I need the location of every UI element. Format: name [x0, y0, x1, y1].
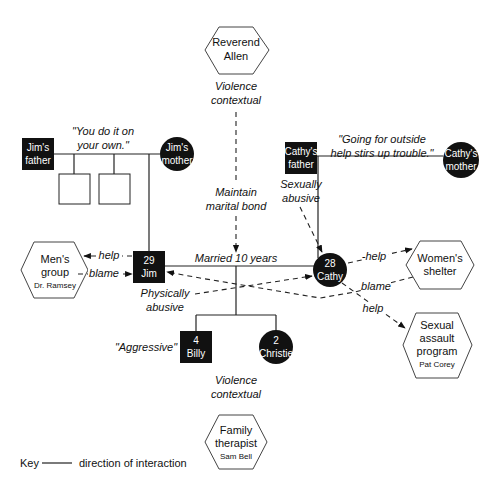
svg-text:2: 2 [273, 335, 279, 346]
christie-node: 2 Christie [259, 330, 293, 364]
maintain-bond-line1: Maintain [215, 186, 257, 198]
svg-text:Christie: Christie [259, 348, 293, 359]
cathy-help-shelter-label: -help [362, 250, 386, 262]
svg-text:Men's: Men's [41, 253, 70, 265]
svg-text:therapist: therapist [215, 437, 257, 449]
key-legend: Key direction of interaction [20, 457, 187, 469]
reverend-line2: Allen [224, 50, 248, 62]
genogram-diagram: Reverend Allen Violence contextual Maint… [0, 0, 489, 494]
family-therapist-node: Family therapist Sam Bell [205, 415, 267, 469]
jims-father-node: Jim's father [22, 138, 54, 170]
sibling-box-1 [59, 174, 90, 204]
key-description: direction of interaction [79, 457, 187, 469]
violence-contextual-top-line2: contextual [211, 94, 262, 106]
sexually-abusive-line2: abusive [282, 192, 320, 204]
billy-node: 4 Billy [180, 331, 212, 363]
physically-abusive-line1: Physically [141, 287, 191, 299]
maintain-bond-line2: marital bond [206, 200, 267, 212]
svg-text:program: program [417, 345, 458, 357]
sibling-box-2 [99, 174, 130, 204]
mens-blame-label: blame [89, 267, 119, 279]
cathy-family-quote-line1: "Going for outside [338, 133, 426, 145]
jim-family-quote-line2: your own." [76, 139, 130, 151]
svg-text:mother: mother [445, 161, 477, 172]
svg-text:Pat Corey: Pat Corey [419, 360, 455, 369]
svg-text:Cathy's: Cathy's [284, 146, 317, 157]
svg-text:group: group [41, 266, 69, 278]
physically-abusive-line2: abusive [146, 301, 184, 313]
svg-text:Cathy's: Cathy's [444, 148, 477, 159]
svg-text:Family: Family [220, 424, 253, 436]
jim-family-quote-line1: "You do it on [72, 125, 134, 137]
svg-text:Billy: Billy [187, 348, 205, 359]
reverend-line1: Reverend [212, 36, 260, 48]
svg-text:Jim: Jim [141, 268, 157, 279]
sexual-assault-program-node: Sexual assault program Pat Corey [403, 313, 472, 378]
svg-text:Jim's: Jim's [27, 142, 49, 153]
cathy-help-assault-label: help [363, 302, 384, 314]
svg-text:father: father [288, 159, 314, 170]
svg-text:28: 28 [324, 258, 336, 269]
violence-contextual-bottom-line1: Violence [215, 374, 257, 386]
svg-text:Jim's: Jim's [166, 142, 188, 153]
svg-text:Sam Bell: Sam Bell [220, 452, 252, 461]
aggressive-label: "Aggressive" [115, 341, 178, 353]
womens-shelter-node: Women's shelter [406, 241, 474, 289]
svg-text:Women's: Women's [417, 252, 463, 264]
svg-text:mother: mother [161, 155, 193, 166]
mens-help-label: help [99, 249, 120, 261]
svg-text:assault: assault [420, 332, 455, 344]
sexually-abusive-line1: Sexually [280, 178, 323, 190]
cathys-father-to-cathy-arrow [300, 207, 322, 252]
reverend-allen-node: Reverend Allen [205, 27, 269, 74]
cathy-node: 28 Cathy [313, 253, 347, 287]
cathy-family-quote-line2: help stirs up trouble." [331, 147, 435, 159]
violence-contextual-bottom-line2: contextual [211, 388, 262, 400]
jim-to-cathy-arrow [195, 276, 312, 294]
jim-node: 29 Jim [133, 251, 165, 283]
svg-text:Dr. Ramsey: Dr. Ramsey [34, 281, 76, 290]
mens-group-node: Men's group Dr. Ramsey [21, 242, 88, 298]
shelter-blame-label: blame [361, 280, 391, 292]
jims-mother-node: Jim's mother [160, 137, 194, 171]
cathys-father-node: Cathy's father [284, 142, 317, 174]
svg-text:Sexual: Sexual [420, 319, 454, 331]
married-label: Married 10 years [195, 252, 278, 264]
violence-contextual-top-line1: Violence [215, 80, 257, 92]
svg-text:4: 4 [193, 335, 199, 346]
svg-text:Cathy: Cathy [317, 271, 343, 282]
svg-text:shelter: shelter [423, 265, 456, 277]
cathys-mother-node: Cathy's mother [443, 142, 479, 178]
svg-text:29: 29 [143, 255, 155, 266]
svg-text:father: father [25, 155, 51, 166]
key-label: Key [20, 457, 39, 469]
